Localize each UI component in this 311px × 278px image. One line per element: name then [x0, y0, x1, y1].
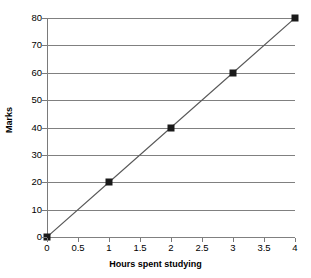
- x-tick-label: 1: [106, 243, 111, 253]
- y-axis-title-text: Marks: [4, 107, 14, 133]
- data-point-marker: [168, 124, 175, 131]
- x-axis-title: Hours spent studying: [0, 259, 311, 269]
- y-tick-label: 80: [20, 13, 42, 23]
- x-tick-label: 3: [230, 243, 235, 253]
- y-tick-mark: [42, 73, 47, 74]
- y-tick-mark: [42, 100, 47, 101]
- y-tick-label: 30: [20, 150, 42, 160]
- y-tick-mark: [42, 18, 47, 19]
- line-chart-figure: Marks 01020304050607080 Hours spent stud…: [0, 0, 311, 278]
- y-tick-label: 40: [20, 123, 42, 133]
- y-axis-tick-labels: 01020304050607080: [18, 0, 42, 278]
- x-tick-label: 0: [44, 243, 49, 253]
- y-tick-label: 20: [20, 178, 42, 188]
- data-point-marker: [292, 15, 299, 22]
- data-point-markers: [47, 18, 295, 237]
- y-tick-label: 60: [20, 68, 42, 78]
- y-tick-label: 10: [20, 205, 42, 215]
- x-tick-label: 1.5: [133, 243, 146, 253]
- y-tick-mark: [42, 128, 47, 129]
- y-axis-title: Marks: [0, 0, 18, 240]
- y-tick-mark: [42, 182, 47, 183]
- data-point-marker: [106, 179, 113, 186]
- y-tick-mark: [42, 155, 47, 156]
- x-tick-label: 2: [168, 243, 173, 253]
- plot-area: [47, 18, 295, 237]
- y-tick-label: 50: [20, 95, 42, 105]
- x-tick-label: 0.5: [71, 243, 84, 253]
- x-tick-label: 4: [292, 243, 297, 253]
- y-tick-label: 0: [20, 232, 42, 242]
- x-tick-label: 3.5: [257, 243, 270, 253]
- y-tick-label: 70: [20, 41, 42, 51]
- x-tick-label: 2.5: [195, 243, 208, 253]
- y-tick-mark: [42, 45, 47, 46]
- data-point-marker: [230, 69, 237, 76]
- y-tick-mark: [42, 210, 47, 211]
